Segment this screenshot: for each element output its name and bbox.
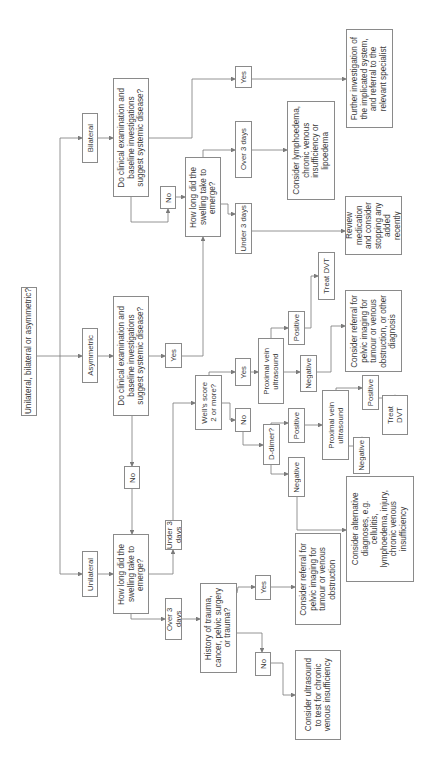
prox2-positive-text: Positive: [366, 379, 375, 406]
proximal-vein-ultrasound-text-1: Proximal vein ultrasound: [262, 348, 280, 395]
unilateral-under-3-days-text: Under 3 days: [165, 521, 182, 549]
bilateral-systemic-question-box: Do clinical examination and baseline inv…: [113, 78, 149, 197]
alternative-diagnoses-text: Consider alternative diagnoses, e.g. cel…: [351, 490, 409, 567]
referral-or-other-text: Consider referral for pelvic imaging for…: [350, 295, 398, 368]
bilateral-over-3-days-text: Over 3 days: [239, 128, 248, 170]
bilateral-how-long-box: How long did the swelling take to emerge…: [185, 157, 221, 237]
prox2-negative-box: Negative: [353, 437, 370, 474]
prox1-negative-text: Negative: [304, 358, 313, 389]
unilateral-how-long-box: How long did the swelling take to emerge…: [113, 534, 149, 614]
further-investigation-text: Further investigation of the implicated …: [350, 37, 388, 120]
root-question-text: Unilateral, bilateral or asymmetric?: [24, 288, 34, 414]
prox2-positive-box: Positive: [362, 375, 379, 410]
d-dimer-negative-box: Negative: [288, 457, 305, 497]
prox1-negative-box: Negative: [300, 355, 317, 392]
ultrasound-chronic-text: Consider ultrasound to test for chronic …: [304, 658, 333, 731]
bilateral-under-3-days-text: Under 3 days: [239, 205, 248, 251]
wells-score-box: Well's score 2 or more?: [195, 375, 222, 430]
proximal-vein-ultrasound-text-2: Proximal vein ultrasound: [327, 402, 345, 449]
history-no-box: No: [255, 652, 271, 676]
treat-dvt-box-1: Treat DVT: [318, 252, 335, 300]
d-dimer-box: D-dimer?: [263, 424, 280, 465]
bilateral-systemic-text: Do clinical examination and baseline inv…: [117, 88, 146, 188]
d-dimer-positive-box: Positive: [288, 408, 305, 443]
proximal-vein-ultrasound-box-1: Proximal vein ultrasound: [258, 338, 284, 404]
review-medication-box: Review medication and consider stopping …: [345, 196, 402, 255]
alternative-diagnoses-box: Consider alternative diagnoses, e.g. cel…: [346, 476, 414, 582]
ultrasound-chronic-box: Consider ultrasound to test for chronic …: [295, 650, 341, 740]
unilateral-over-3-days-box: Over 3 days: [165, 598, 182, 640]
bilateral-box: Bilateral: [82, 113, 98, 163]
bilateral-under-3-days-box: Under 3 days: [235, 203, 252, 254]
root-question-box: Unilateral, bilateral or asymmetric?: [21, 287, 37, 416]
wells-yes-text: Yes: [239, 366, 248, 379]
d-dimer-text: D-dimer?: [267, 428, 276, 460]
wells-no-text: No: [239, 415, 248, 425]
bilateral-no-box: No: [160, 186, 176, 209]
lymphoedema-text: Consider lymphoedema, chronic venous ins…: [292, 106, 330, 195]
referral-or-other-box: Consider referral for pelvic imaging for…: [345, 290, 402, 372]
asymmetric-systemic-text: Do clinical examination and baseline inv…: [117, 306, 146, 406]
wells-no-box: No: [235, 408, 251, 432]
history-yes-text: Yes: [259, 581, 268, 594]
d-dimer-positive-text: Positive: [292, 412, 301, 439]
history-question-box: History of trauma, cancer, pelvic surger…: [200, 583, 237, 673]
asymmetric-yes-text: Yes: [169, 349, 178, 362]
review-medication-text: Review medication and consider stopping …: [345, 197, 402, 254]
further-investigation-box: Further investigation of the implicated …: [346, 29, 393, 128]
d-dimer-negative-text: Negative: [292, 462, 301, 493]
bilateral-no-text: No: [164, 193, 173, 203]
history-referral-box: Consider referral for pelvic imaging for…: [295, 533, 341, 625]
flowchart-canvas: Unilateral, bilateral or asymmetric? Bil…: [0, 0, 426, 773]
unilateral-box: Unilateral: [82, 551, 98, 597]
asymmetric-no-box: No: [124, 466, 140, 489]
proximal-vein-ultrasound-box-2: Proximal vein ultrasound: [322, 390, 349, 460]
asymmetric-text: Asymmetric: [86, 335, 95, 376]
asymmetric-yes-box: Yes: [165, 343, 182, 368]
asymmetric-systemic-question-box: Do clinical examination and baseline inv…: [113, 296, 149, 416]
treat-dvt-text-2: Treat DVT: [386, 406, 404, 424]
wells-score-text: Well's score 2 or more?: [200, 382, 218, 424]
prox1-positive-box: Positive: [288, 311, 305, 345]
lymphoedema-box: Consider lymphoedema, chronic venous ins…: [287, 101, 335, 200]
bilateral-text: Bilateral: [86, 124, 95, 152]
treat-dvt-box-2: Treat DVT: [382, 395, 408, 435]
unilateral-how-long-text: How long did the swelling take to emerge…: [117, 544, 146, 605]
prox2-negative-text: Negative: [357, 440, 366, 471]
bilateral-over-3-days-box: Over 3 days: [235, 121, 252, 178]
unilateral-over-3-days-text: Over 3 days: [165, 599, 182, 639]
asymmetric-no-text: No: [128, 473, 137, 483]
asymmetric-box: Asymmetric: [82, 328, 98, 383]
history-referral-text: Consider referral for pelvic imaging for…: [299, 543, 337, 616]
wells-yes-box: Yes: [235, 358, 251, 386]
history-yes-box: Yes: [255, 575, 271, 600]
treat-dvt-text-1: Treat DVT: [322, 258, 331, 294]
bilateral-yes-text: Yes: [239, 71, 248, 84]
prox1-positive-text: Positive: [292, 314, 301, 341]
bilateral-yes-box: Yes: [235, 66, 252, 88]
history-no-text: No: [259, 659, 268, 669]
history-question-text: History of trauma, cancer, pelvic surger…: [204, 588, 233, 667]
unilateral-under-3-days-box: Under 3 days: [165, 520, 182, 550]
bilateral-how-long-text: How long did the swelling take to emerge…: [189, 167, 218, 228]
unilateral-text: Unilateral: [86, 558, 95, 591]
